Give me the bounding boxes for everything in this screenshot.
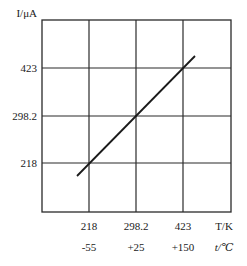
y-axis-label: I/μA <box>16 7 37 19</box>
x-secondary-tick-25: +25 <box>127 241 145 253</box>
x-tick-218: 218 <box>81 220 98 232</box>
y-tick-423: 423 <box>21 62 38 74</box>
x-tick-298: 298.2 <box>124 220 149 232</box>
x-axis-label: T/K <box>215 220 233 232</box>
x-tick-423: 423 <box>175 220 192 232</box>
x-secondary-tick-150: +150 <box>172 241 195 253</box>
x-secondary-tick-neg55: -55 <box>82 241 97 253</box>
x-secondary-axis-label: t/℃ <box>215 241 234 253</box>
chart: I/μA 423 298.2 218 218 298.2 423 T/K -55… <box>0 0 247 266</box>
y-tick-218: 218 <box>21 157 38 169</box>
y-tick-298: 298.2 <box>12 110 37 122</box>
